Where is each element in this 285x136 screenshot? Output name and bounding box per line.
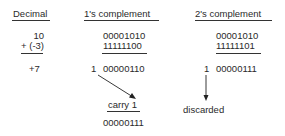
discard-arrow-icon — [204, 75, 209, 101]
arrows-layer — [0, 0, 285, 136]
carry-arrow-icon — [98, 75, 136, 99]
